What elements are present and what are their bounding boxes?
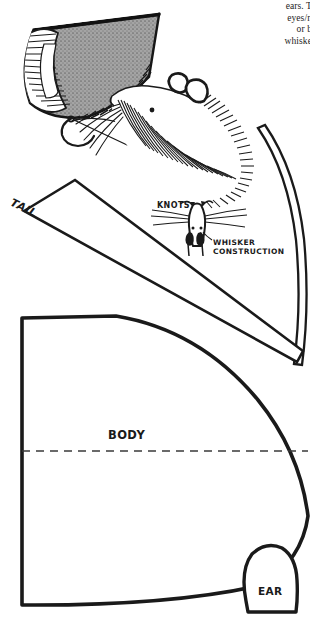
ear-label: EAR	[258, 585, 283, 597]
pattern-page: ears. T eyes/n or b whiske TAIL BODY EAR…	[0, 0, 310, 621]
whisker-construction-label: WHISKER CONSTRUCTION	[213, 238, 283, 256]
ear-pattern-piece	[244, 546, 297, 612]
knots-label: KNOTS	[157, 201, 190, 210]
body-label: BODY	[108, 428, 145, 442]
instruction-line-4: whiske	[192, 36, 310, 48]
instruction-text-block: ears. T eyes/n or b whiske	[192, 1, 310, 47]
instruction-line-3: or b	[192, 24, 310, 36]
instruction-line-2: eyes/n	[192, 13, 310, 25]
instruction-line-1: ears. T	[192, 1, 310, 13]
pattern-illustration	[0, 0, 310, 621]
